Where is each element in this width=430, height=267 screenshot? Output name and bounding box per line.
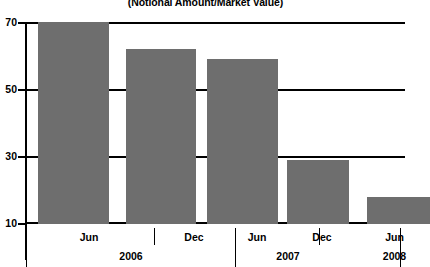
x-axis-label-dec-2007: Dec (287, 232, 357, 243)
bar-dec-2006 (126, 49, 196, 224)
x-axis-group-label-2007: 2007 (253, 251, 323, 262)
x-axis-label-jun-2008: Jun (363, 232, 426, 243)
x-axis-label-jun-2007: Jun (222, 232, 292, 243)
y-tick-30 (18, 156, 26, 158)
chart-subtitle: (Notional Amount/Market Value) (0, 0, 411, 8)
y-axis-label-70: 70 (0, 17, 17, 27)
y-axis-label-30: 30 (0, 151, 17, 161)
bar-jun-2007 (207, 59, 278, 224)
y-tick-10 (18, 223, 26, 225)
chart-title-block: Credit Default Swaps (Notional Amount/Ma… (0, 0, 411, 8)
bar-dec-2007 (287, 160, 349, 224)
x-axis-label-jun-2006: Jun (54, 232, 124, 243)
x-axis: Jun Dec Jun Dec Jun 2006 2007 2008 (26, 226, 405, 267)
bar-jun-2006 (38, 22, 109, 224)
y-tick-50 (18, 89, 26, 91)
x-axis-group-label-2008: 2008 (363, 251, 426, 262)
y-tick-70 (18, 22, 26, 24)
y-axis-label-50: 50 (0, 84, 17, 94)
bar-jun-2008 (367, 197, 430, 224)
x-axis-year-separator-start (26, 228, 27, 267)
y-axis-label-10: 10 (0, 218, 17, 228)
x-axis-label-dec-2006: Dec (159, 232, 229, 243)
x-axis-month-separator-2006 (154, 228, 155, 245)
x-axis-group-label-2006: 2006 (96, 251, 166, 262)
plot-area (26, 22, 405, 224)
